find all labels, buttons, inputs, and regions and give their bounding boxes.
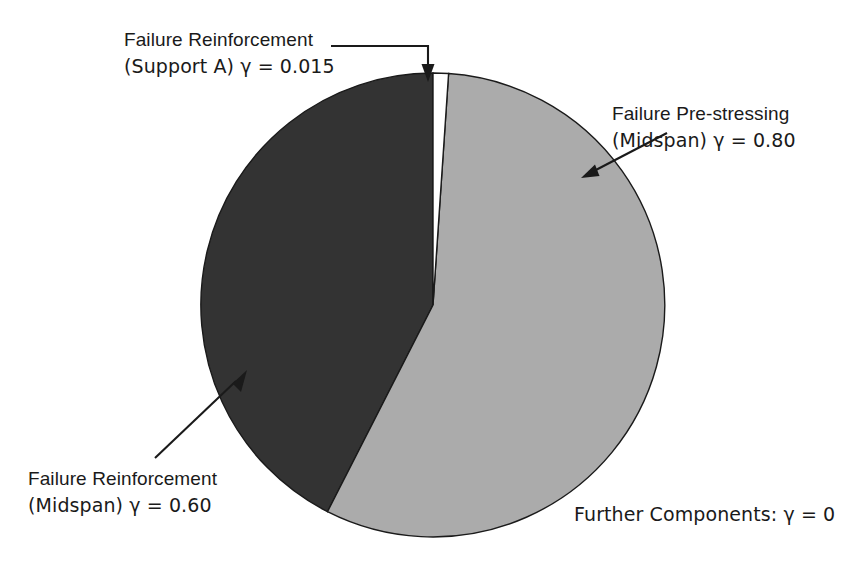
annotation-support-a-line1: Failure Reinforcement	[124, 27, 335, 53]
annotation-prestressing-line1: Failure Pre-stressing	[612, 101, 796, 127]
annotation-prestressing-line2: (Midspan) γ = 0.80	[612, 127, 796, 153]
annotation-support-a-line2: (Support A) γ = 0.015	[124, 53, 335, 79]
pie-slices	[201, 73, 665, 537]
annotation-reinforcement-midspan-line2: (Midspan) γ = 0.60	[28, 492, 217, 518]
annotation-reinforcement-midspan: Failure Reinforcement (Midspan) γ = 0.60	[28, 466, 217, 518]
annotation-further-components: Further Components: γ = 0	[574, 501, 835, 527]
annotation-further-components-line1: Further Components: γ = 0	[574, 501, 835, 527]
annotation-reinforcement-midspan-line1: Failure Reinforcement	[28, 466, 217, 492]
pie-chart-figure: Failure Reinforcement (Support A) γ = 0.…	[0, 0, 868, 567]
annotation-prestressing: Failure Pre-stressing (Midspan) γ = 0.80	[612, 101, 796, 153]
annotation-support-a: Failure Reinforcement (Support A) γ = 0.…	[124, 27, 335, 79]
